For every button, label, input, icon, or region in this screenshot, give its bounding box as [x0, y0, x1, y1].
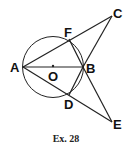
center-point-o: [52, 65, 54, 67]
segment-ae: [23, 67, 112, 122]
label-e: E: [113, 117, 122, 132]
segment-bd: [69, 67, 83, 95]
label-d: D: [64, 97, 73, 112]
label-a: A: [10, 60, 20, 75]
segment-bf: [69, 39, 83, 67]
geometry-figure: A B C D E F O Ex. 28: [0, 0, 130, 150]
label-b: B: [86, 61, 95, 76]
figure-caption: Ex. 28: [53, 133, 80, 144]
label-o: O: [48, 69, 58, 84]
label-f: F: [64, 25, 72, 40]
label-c: C: [113, 6, 123, 21]
